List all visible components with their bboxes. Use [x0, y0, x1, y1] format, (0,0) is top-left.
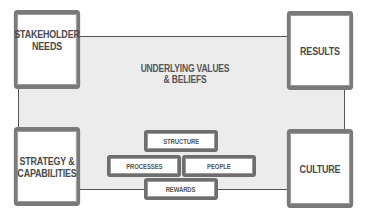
results-label: RESULTS	[300, 45, 340, 57]
rewards-box: REWARDS	[144, 178, 218, 200]
underlying-values-line1: UNDERLYING VALUES	[121, 63, 249, 74]
rewards-label: REWARDS	[166, 186, 196, 193]
culture-box: CULTURE	[287, 129, 353, 208]
underlying-values-label: UNDERLYING VALUES & BELIEFS	[121, 63, 249, 85]
processes-box: PROCESSES	[107, 155, 181, 177]
stakeholder-needs-label-line2: NEEDS	[14, 40, 79, 52]
culture-label: CULTURE	[300, 163, 341, 175]
processes-label: PROCESSES	[126, 163, 162, 170]
people-box: PEOPLE	[182, 155, 256, 177]
results-box: RESULTS	[287, 11, 353, 90]
strategy-capabilities-box: STRATEGY & CAPABILITIES	[14, 127, 80, 206]
structure-box: STRUCTURE	[144, 130, 218, 152]
strategy-label-line1: STRATEGY &	[17, 155, 76, 167]
stakeholder-needs-box: STAKEHOLDER NEEDS	[14, 10, 80, 89]
underlying-values-line2: & BELIEFS	[121, 74, 249, 85]
structure-label: STRUCTURE	[163, 138, 199, 145]
stakeholder-needs-label-line1: STAKEHOLDER	[14, 28, 79, 40]
people-label: PEOPLE	[207, 163, 231, 170]
strategy-label-line2: CAPABILITIES	[17, 167, 76, 179]
